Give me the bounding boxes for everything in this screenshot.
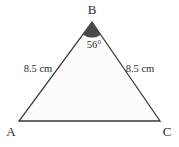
vertex-label-b: B — [88, 2, 97, 17]
geometry-figure: B A C 56° 8.5 cm 8.5 cm — [0, 0, 179, 147]
side-length-label-right: 8.5 cm — [126, 63, 155, 74]
vertex-label-a: A — [6, 124, 16, 139]
vertex-label-c: C — [163, 124, 172, 139]
side-length-label-left: 8.5 cm — [24, 63, 53, 74]
triangle-diagram-svg: B A C 56° 8.5 cm 8.5 cm — [0, 0, 179, 147]
angle-measure-label-b: 56° — [87, 39, 102, 50]
